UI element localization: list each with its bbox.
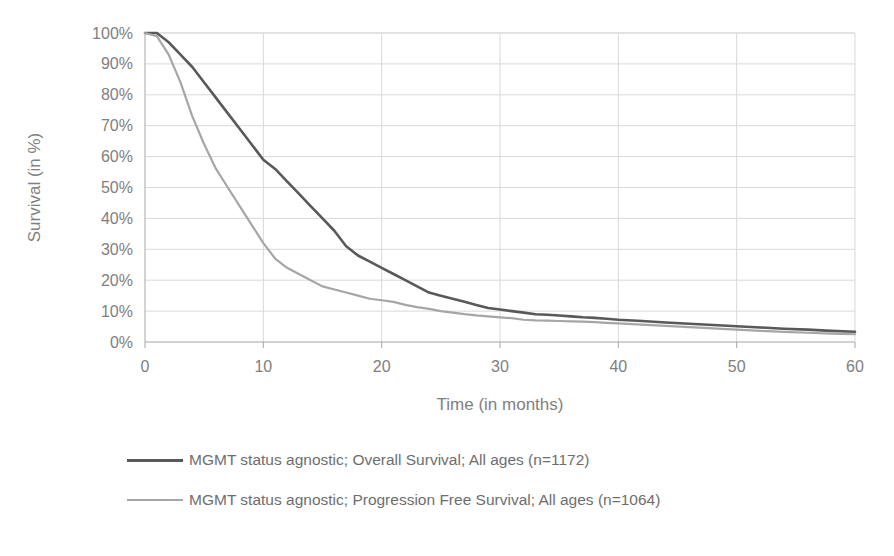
x-tick-label: 60 <box>846 358 864 375</box>
chart-plot-area: 0%10%20%30%40%50%60%70%80%90%100% 010203… <box>0 0 894 430</box>
x-tick-label: 20 <box>373 358 391 375</box>
x-axis-tick-labels: 0102030405060 <box>141 358 864 375</box>
y-tick-label: 40% <box>101 210 133 227</box>
x-tick-marks <box>145 342 855 348</box>
chart-svg: 0%10%20%30%40%50%60%70%80%90%100% 010203… <box>0 0 894 430</box>
y-tick-label: 60% <box>101 148 133 165</box>
survival-chart-figure: 0%10%20%30%40%50%60%70%80%90%100% 010203… <box>0 0 894 556</box>
y-tick-label: 90% <box>101 55 133 72</box>
grid-lines <box>145 33 855 342</box>
y-tick-label: 70% <box>101 117 133 134</box>
y-tick-label: 50% <box>101 179 133 196</box>
y-tick-label: 0% <box>110 334 133 351</box>
legend-label-overall-survival: MGMT status agnostic; Overall Survival; … <box>189 451 589 469</box>
x-tick-label: 30 <box>491 358 509 375</box>
y-tick-label: 100% <box>92 25 133 42</box>
x-tick-label: 10 <box>254 358 272 375</box>
x-tick-label: 0 <box>141 358 150 375</box>
y-tick-label: 30% <box>101 241 133 258</box>
x-tick-label: 50 <box>728 358 746 375</box>
chart-legend: MGMT status agnostic; Overall Survival; … <box>0 440 894 520</box>
y-tick-label: 10% <box>101 303 133 320</box>
legend-item: MGMT status agnostic; Progression Free S… <box>0 480 894 520</box>
legend-line-swatch-progression-free-survival <box>127 499 183 501</box>
x-axis-title: Time (in months) <box>437 395 564 414</box>
legend-label-progression-free-survival: MGMT status agnostic; Progression Free S… <box>189 491 660 509</box>
y-tick-label: 80% <box>101 86 133 103</box>
y-axis-title: Survival (in %) <box>25 133 44 243</box>
legend-item: MGMT status agnostic; Overall Survival; … <box>0 440 894 480</box>
y-tick-label: 20% <box>101 272 133 289</box>
legend-line-swatch-overall-survival <box>127 459 183 462</box>
x-tick-label: 40 <box>609 358 627 375</box>
y-axis-tick-labels: 0%10%20%30%40%50%60%70%80%90%100% <box>92 25 133 351</box>
